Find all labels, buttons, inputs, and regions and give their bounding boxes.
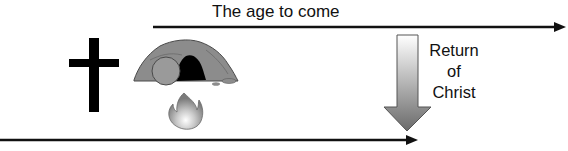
return-of-christ-line-1: Return (424, 40, 484, 61)
age-to-come-timeline-arrow (153, 22, 566, 32)
present-age-timeline-arrow (0, 135, 418, 145)
return-of-christ-line-2: of (424, 61, 484, 82)
fire-icon (169, 93, 203, 129)
age-to-come-label: The age to come (212, 2, 340, 22)
cross-icon (69, 38, 119, 112)
return-of-christ-line-3: Christ (424, 82, 484, 103)
return-of-christ-label: Return of Christ (424, 40, 484, 103)
empty-tomb-icon (134, 40, 238, 86)
